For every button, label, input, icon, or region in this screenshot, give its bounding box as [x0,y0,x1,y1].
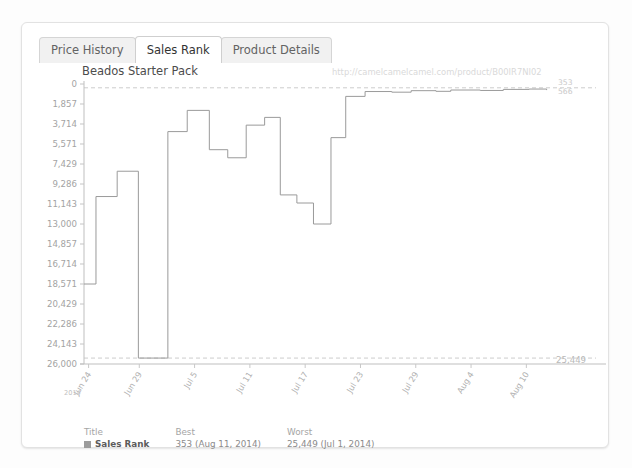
watermark-url: http://camelcamelcamel.com/product/B00IR… [332,67,542,77]
legend-header-best: Best [175,427,287,439]
x-tick-label: Jul 11 [233,370,254,396]
x-tick-label: Aug 10 [507,370,531,400]
x-axis: Jun 24Jun 29Jul 5Jul 11Jul 17Jul 23Jul 2… [71,364,606,400]
series-group [84,89,547,358]
y-tick-label: 1,857 [52,99,77,109]
current-rank-edge-label: 566 [558,87,573,96]
x-tick-label: Jul 23 [344,370,365,396]
chart-panel: Price History Sales Rank Product Details… [21,22,609,448]
y-tick-label: 9,286 [52,179,77,189]
legend-header-row: Title Best Worst [84,427,400,439]
series-line-sales-rank [84,89,547,358]
y-tick-label: 11,143 [47,199,77,209]
x-tick-label: Jul 5 [181,370,199,391]
legend-header-worst: Worst [287,427,400,439]
y-tick-label: 13,000 [47,219,77,229]
sales-rank-chart: 01,8573,7145,5717,4299,28611,14313,00014… [22,23,608,447]
y-tick-label: 3,714 [52,119,77,129]
y-tick-label: 26,000 [47,359,77,369]
legend-series-title: Sales Rank [84,439,175,449]
legend-table: Title Best Worst Sales Rank 353 (Aug 11,… [84,427,400,449]
legend-series-name: Sales Rank [95,439,149,449]
x-tick-label: Jul 17 [289,370,310,396]
y-tick-label: 18,571 [47,279,77,289]
legend-color-swatch [84,441,91,448]
screenshot-root: Price History Sales Rank Product Details… [0,0,632,468]
y-tick-label: 24,143 [47,339,77,349]
y-tick-label: 0 [72,79,77,89]
y-axis: 01,8573,7145,5717,4299,28611,14313,00014… [47,79,84,369]
worst-rank-edge-label: 25,449 [556,355,586,365]
x-tick-label: Jul 29 [399,370,420,396]
y-tick-label: 14,857 [47,239,77,249]
legend-row: Sales Rank 353 (Aug 11, 2014) 25,449 (Ju… [84,439,400,449]
y-tick-label: 5,571 [52,139,77,149]
tab-sales-rank[interactable]: Sales Rank [135,36,222,63]
y-tick-label: 7,429 [52,159,77,169]
chart-legend: Title Best Worst Sales Rank 353 (Aug 11,… [84,427,400,449]
legend-worst-value: 25,449 (Jul 1, 2014) [287,439,400,449]
chart-svg: 01,8573,7145,5717,4299,28611,14313,00014… [22,23,608,447]
reference-lines [84,88,596,358]
best-rank-edge-label: 353 [558,78,573,87]
legend-best-value: 353 (Aug 11, 2014) [175,439,287,449]
y-tick-label: 20,429 [47,299,77,309]
chart-title: Beados Starter Pack [82,64,198,78]
x-tick-label: Jun 29 [121,370,144,398]
axis-year-label: 2014 [64,389,81,397]
legend-header-title: Title [84,427,175,439]
y-tick-label: 16,714 [47,259,77,269]
y-tick-label: 22,286 [47,319,77,329]
x-tick-label: Aug 4 [455,370,476,395]
